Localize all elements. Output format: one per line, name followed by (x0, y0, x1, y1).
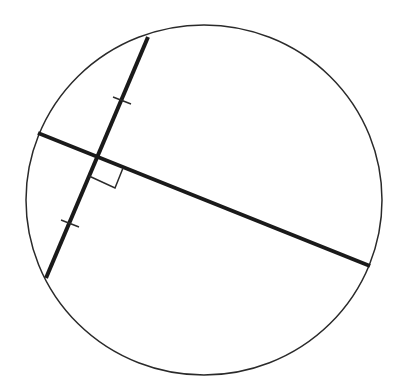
perpendicular-bisector-line (38, 133, 370, 266)
geometry-diagram (0, 0, 403, 391)
right-angle-marker (89, 168, 123, 188)
